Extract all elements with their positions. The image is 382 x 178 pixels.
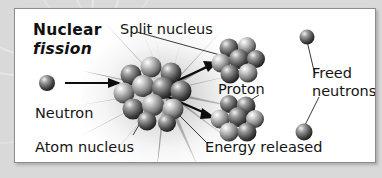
label-freed-line2: neutrons	[312, 83, 376, 99]
freed-neutron-top-icon	[297, 27, 317, 47]
label-proton: Proton	[218, 81, 265, 97]
diagram-panel: Nuclear fission Split nucleus Neutron At…	[14, 8, 376, 163]
atom-nucleus-cluster-icon	[111, 53, 201, 129]
figure-title-line2: fission	[33, 40, 102, 59]
label-neutron: Neutron	[35, 105, 93, 121]
label-energy-released: Energy released	[205, 139, 322, 155]
figure-title-line1: Nuclear	[33, 21, 102, 39]
split-nucleus-fragment-bottom-icon	[209, 93, 267, 143]
neutron-sphere-icon	[37, 73, 57, 93]
split-nucleus-fragment-top-icon	[211, 35, 269, 85]
figure-title: Nuclear fission	[33, 21, 102, 59]
label-split-nucleus: Split nucleus	[120, 21, 213, 37]
label-freed-line1: Freed	[312, 65, 352, 81]
figure-container: Nuclear fission Split nucleus Neutron At…	[0, 0, 382, 178]
label-atom-nucleus: Atom nucleus	[35, 139, 134, 155]
